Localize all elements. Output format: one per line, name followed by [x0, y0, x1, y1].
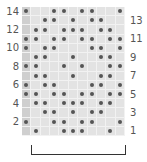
- chart-cell: [31, 127, 40, 136]
- chart-cell: [69, 7, 78, 16]
- chart-cell: [50, 118, 59, 127]
- chart-cell: [59, 35, 68, 44]
- chart-cell: [88, 16, 97, 25]
- chart-cell: [88, 81, 97, 90]
- purl-dot-icon: [80, 9, 84, 13]
- knitting-chart: [22, 7, 125, 136]
- chart-cell: [41, 7, 50, 16]
- chart-cell: [88, 108, 97, 117]
- chart-cell: [41, 81, 50, 90]
- chart-cell: [69, 53, 78, 62]
- chart-cell: [69, 127, 78, 136]
- chart-cell: [97, 127, 106, 136]
- chart-cell: [106, 108, 115, 117]
- chart-cell: [31, 90, 40, 99]
- chart-cell: [88, 118, 97, 127]
- chart-cell: [116, 127, 125, 136]
- chart-cell: [97, 118, 106, 127]
- chart-cell: [116, 35, 125, 44]
- purl-dot-icon: [62, 37, 66, 41]
- chart-cell: [41, 90, 50, 99]
- purl-dot-icon: [108, 37, 112, 41]
- chart-cell: [41, 16, 50, 25]
- purl-dot-icon: [34, 64, 38, 68]
- purl-dot-icon: [118, 120, 122, 124]
- purl-dot-icon: [99, 18, 103, 22]
- purl-dot-icon: [90, 83, 94, 87]
- chart-cell: [88, 99, 97, 108]
- purl-dot-icon: [90, 46, 94, 50]
- chart-cell: [97, 7, 106, 16]
- purl-dot-icon: [108, 129, 112, 133]
- purl-dot-icon: [71, 28, 75, 32]
- chart-cell: [106, 81, 115, 90]
- purl-dot-icon: [118, 46, 122, 50]
- purl-dot-icon: [108, 92, 112, 96]
- chart-cell: [106, 72, 115, 81]
- purl-dot-icon: [108, 74, 112, 78]
- chart-cell: [59, 25, 68, 34]
- purl-dot-icon: [62, 120, 66, 124]
- chart-cell: [31, 108, 40, 117]
- chart-grid: [22, 7, 125, 136]
- chart-cell: [69, 44, 78, 53]
- chart-cell: [69, 25, 78, 34]
- chart-cell: [97, 62, 106, 71]
- purl-dot-icon: [24, 120, 28, 124]
- chart-cell: [116, 62, 125, 71]
- purl-dot-icon: [71, 129, 75, 133]
- chart-cell: [106, 25, 115, 34]
- purl-dot-icon: [99, 28, 103, 32]
- chart-cell: [88, 35, 97, 44]
- purl-dot-icon: [34, 101, 38, 105]
- chart-cell: [50, 35, 59, 44]
- chart-cell: [78, 72, 87, 81]
- chart-cell: [22, 108, 31, 117]
- chart-cell: [88, 7, 97, 16]
- chart-cell: [69, 108, 78, 117]
- chart-cell: [78, 44, 87, 53]
- chart-cell: [41, 99, 50, 108]
- purl-dot-icon: [34, 55, 38, 59]
- purl-dot-icon: [80, 37, 84, 41]
- purl-dot-icon: [34, 129, 38, 133]
- chart-cell: [106, 16, 115, 25]
- chart-cell: [31, 7, 40, 16]
- purl-dot-icon: [52, 83, 56, 87]
- chart-cell: [41, 118, 50, 127]
- chart-cell: [50, 127, 59, 136]
- chart-cell: [116, 53, 125, 62]
- purl-dot-icon: [80, 28, 84, 32]
- chart-cell: [106, 44, 115, 53]
- purl-dot-icon: [99, 110, 103, 114]
- chart-cell: [50, 53, 59, 62]
- purl-dot-icon: [99, 55, 103, 59]
- chart-cell: [78, 81, 87, 90]
- purl-dot-icon: [24, 46, 28, 50]
- purl-dot-icon: [24, 37, 28, 41]
- chart-cell: [31, 16, 40, 25]
- chart-cell: [97, 44, 106, 53]
- chart-cell: [116, 16, 125, 25]
- chart-cell: [31, 99, 40, 108]
- row-label-right: 3: [130, 108, 136, 118]
- chart-cell: [50, 108, 59, 117]
- purl-dot-icon: [34, 92, 38, 96]
- chart-cell: [116, 118, 125, 127]
- chart-cell: [69, 90, 78, 99]
- purl-dot-icon: [108, 28, 112, 32]
- purl-dot-icon: [52, 92, 56, 96]
- purl-dot-icon: [90, 92, 94, 96]
- purl-dot-icon: [62, 9, 66, 13]
- chart-cell: [31, 118, 40, 127]
- chart-cell: [59, 53, 68, 62]
- chart-cell: [106, 90, 115, 99]
- purl-dot-icon: [90, 120, 94, 124]
- chart-cell: [31, 44, 40, 53]
- chart-cell: [88, 44, 97, 53]
- purl-dot-icon: [24, 92, 28, 96]
- chart-cell: [59, 90, 68, 99]
- chart-cell: [41, 35, 50, 44]
- chart-cell: [41, 72, 50, 81]
- chart-cell: [78, 53, 87, 62]
